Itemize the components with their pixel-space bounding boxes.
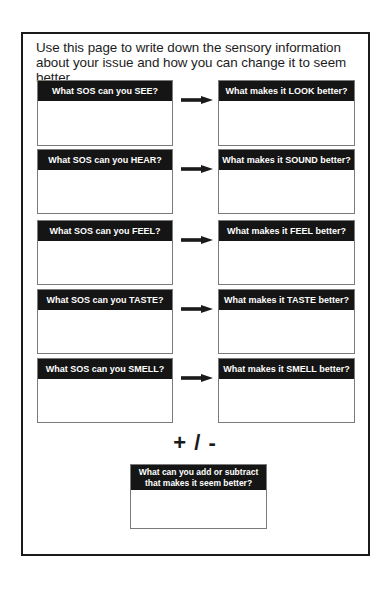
add-subtract-box: What can you add or subtract that makes … xyxy=(130,464,267,529)
prompt-header-feel: What SOS can you FEEL? xyxy=(38,221,172,241)
answer-area-smell-better[interactable] xyxy=(219,379,354,422)
answer-area-smell[interactable] xyxy=(38,379,172,422)
response-header-sound: What makes it SOUND better? xyxy=(219,150,354,170)
prompt-header-taste: What SOS can you TASTE? xyxy=(38,290,172,310)
response-box-look: What makes it LOOK better? xyxy=(218,80,355,146)
response-box-sound: What makes it SOUND better? xyxy=(218,149,355,214)
prompt-box-feel: What SOS can you FEEL? xyxy=(37,220,173,285)
response-header-smell: What makes it SMELL better? xyxy=(219,359,354,379)
answer-area-taste[interactable] xyxy=(38,310,172,353)
right-arrow-icon xyxy=(181,374,213,382)
answer-area-look[interactable] xyxy=(219,101,354,145)
answer-area-hear[interactable] xyxy=(38,170,172,213)
prompt-box-smell: What SOS can you SMELL? xyxy=(37,358,173,423)
answer-area-see[interactable] xyxy=(38,101,172,145)
right-arrow-icon xyxy=(181,165,213,173)
response-box-feel: What makes it FEEL better? xyxy=(218,220,355,285)
response-header-taste: What makes it TASTE better? xyxy=(219,290,354,310)
right-arrow-icon xyxy=(181,305,213,313)
response-box-taste: What makes it TASTE better? xyxy=(218,289,355,354)
answer-area-add-subtract[interactable] xyxy=(131,490,266,528)
prompt-box-hear: What SOS can you HEAR? xyxy=(37,149,173,214)
prompt-box-taste: What SOS can you TASTE? xyxy=(37,289,173,354)
add-subtract-header: What can you add or subtract that makes … xyxy=(131,465,266,490)
response-header-look: What makes it LOOK better? xyxy=(219,81,354,101)
answer-area-feel[interactable] xyxy=(38,241,172,284)
answer-area-feel-better[interactable] xyxy=(219,241,354,284)
right-arrow-icon xyxy=(181,96,213,104)
prompt-header-hear: What SOS can you HEAR? xyxy=(38,150,172,170)
plus-minus-label: + / - xyxy=(0,430,390,456)
answer-area-taste-better[interactable] xyxy=(219,310,354,353)
answer-area-sound[interactable] xyxy=(219,170,354,213)
response-header-feel: What makes it FEEL better? xyxy=(219,221,354,241)
prompt-box-see: What SOS can you SEE? xyxy=(37,80,173,146)
response-box-smell: What makes it SMELL better? xyxy=(218,358,355,423)
prompt-header-smell: What SOS can you SMELL? xyxy=(38,359,172,379)
intro-text: Use this page to write down the sensory … xyxy=(36,40,366,85)
prompt-header-see: What SOS can you SEE? xyxy=(38,81,172,101)
right-arrow-icon xyxy=(181,236,213,244)
